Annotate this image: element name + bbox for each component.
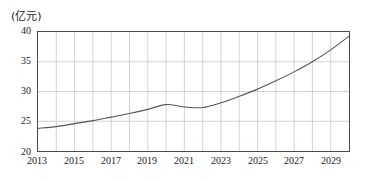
x-tick-label: 2023: [211, 155, 231, 166]
y-tick-label: 25: [0, 115, 31, 126]
x-tick-label: 2017: [101, 155, 121, 166]
x-tick-label: 2027: [284, 155, 304, 166]
x-axis-tick-labels: 2013 2015 2017 2019 2021 2023 2025 2027 …: [0, 155, 367, 175]
plot-inner: [38, 32, 349, 151]
x-tick-label: 2025: [248, 155, 268, 166]
x-tick-label: 2013: [27, 155, 47, 166]
y-tick-label: 30: [0, 85, 31, 96]
x-tick-label: 2015: [64, 155, 84, 166]
data-series-line: [38, 36, 349, 128]
x-tick-label: 2019: [137, 155, 157, 166]
plot-area: [37, 31, 350, 152]
chart-figure: (亿元) 40 35 30 25 20 2013 2015 2017 2019 …: [0, 0, 367, 181]
y-tick-label: 40: [0, 25, 31, 36]
x-tick-label: 2029: [321, 155, 341, 166]
y-tick-label: 35: [0, 55, 31, 66]
y-axis-tick-labels: 40 35 30 25 20: [0, 0, 34, 181]
x-tick-label: 2021: [174, 155, 194, 166]
chart-canvas: [38, 32, 349, 151]
